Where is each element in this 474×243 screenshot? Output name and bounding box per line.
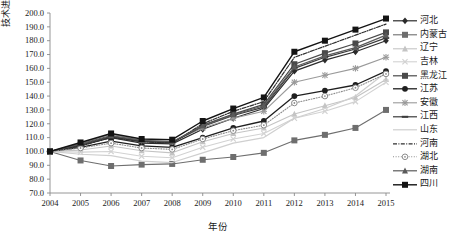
legend-marker-icon (392, 109, 418, 123)
legend-label: 吉林 (418, 57, 438, 66)
legend-marker-icon (392, 177, 418, 191)
legend-label: 江苏 (418, 84, 438, 93)
chart-legend: 河北内蒙古辽宁吉林黑龙江江苏安徽江西山东河南湖北湖南四川 (392, 14, 474, 191)
legend-marker-icon (392, 164, 418, 178)
legend-label: 湖北 (418, 152, 438, 161)
legend-item-0[interactable]: 河北 (392, 14, 474, 28)
series-4 (47, 29, 389, 154)
legend-marker-icon (392, 136, 418, 150)
legend-marker-icon (392, 150, 418, 164)
legend-marker-icon (392, 28, 418, 42)
legend-item-4[interactable]: 黑龙江 (392, 68, 474, 82)
legend-label: 安徽 (418, 98, 438, 107)
series-12 (47, 16, 389, 155)
legend-marker-icon (392, 41, 418, 55)
legend-marker-icon (392, 82, 418, 96)
legend-label: 四川 (418, 179, 438, 188)
legend-marker-icon (392, 123, 418, 137)
legend-item-11[interactable]: 湖南 (392, 164, 474, 178)
legend-item-12[interactable]: 四川 (392, 177, 474, 191)
legend-item-2[interactable]: 辽宁 (392, 41, 474, 55)
legend-item-8[interactable]: 山东 (392, 123, 474, 137)
legend-marker-icon (392, 55, 418, 69)
legend-marker-icon (392, 68, 418, 82)
legend-item-10[interactable]: 湖北 (392, 150, 474, 164)
legend-item-5[interactable]: 江苏 (392, 82, 474, 96)
legend-item-1[interactable]: 内蒙古 (392, 28, 474, 42)
legend-label: 河南 (418, 139, 438, 148)
legend-label: 山东 (418, 125, 438, 134)
legend-label: 辽宁 (418, 43, 438, 52)
legend-label: 湖南 (418, 166, 438, 175)
legend-item-6[interactable]: 安徽 (392, 96, 474, 110)
legend-marker-icon (392, 96, 418, 110)
legend-label: 河北 (418, 16, 438, 25)
legend-label: 内蒙古 (418, 30, 447, 39)
chart-container: 技术进步(%) 200.0190.0180.0170.0160.0150.014… (0, 0, 474, 243)
series-10 (47, 71, 389, 154)
legend-label: 江西 (418, 111, 438, 120)
legend-item-3[interactable]: 吉林 (392, 55, 474, 69)
legend-marker-icon (392, 14, 418, 28)
legend-label: 黑龙江 (418, 71, 447, 80)
legend-item-9[interactable]: 河南 (392, 136, 474, 150)
legend-item-7[interactable]: 江西 (392, 109, 474, 123)
